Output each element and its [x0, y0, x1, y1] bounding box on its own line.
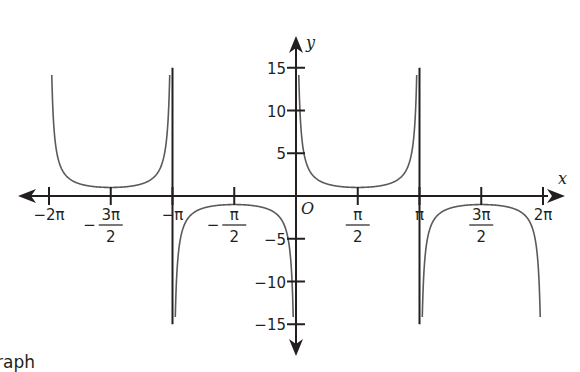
x-tick-numerator: π	[353, 206, 362, 224]
axes	[18, 36, 565, 356]
x-axis-label: x	[558, 169, 567, 188]
x-tick-numerator: π	[230, 206, 239, 224]
x-tick-label: −2π	[33, 206, 64, 224]
x-axis-right-arrow-icon	[547, 189, 565, 203]
y-tick-label: 5	[276, 145, 286, 163]
caption-fragment: raph	[0, 352, 35, 372]
curve-branch	[299, 75, 417, 188]
y-tick-label: −15	[254, 316, 286, 334]
y-tick-label: 10	[267, 103, 286, 121]
y-tick-label: −5	[264, 231, 286, 249]
origin-label: O	[301, 199, 314, 218]
curve-branch	[52, 75, 170, 188]
x-tick-label: π	[415, 206, 424, 224]
x-tick-denominator: 2	[353, 228, 363, 246]
x-tick-denominator: 2	[476, 228, 486, 246]
x-tick-label: 2π	[534, 206, 553, 224]
y-tick-label: 15	[267, 60, 286, 78]
x-tick-sign: −	[207, 216, 220, 234]
x-tick-numerator: 3π	[472, 206, 491, 224]
x-tick-numerator: 3π	[101, 206, 120, 224]
y-tick-label: −10	[254, 274, 286, 292]
x-tick-label: −π	[162, 206, 184, 224]
x-tick-denominator: 2	[106, 228, 116, 246]
x-tick-denominator: 2	[229, 228, 239, 246]
x-tick-sign: −	[83, 216, 96, 234]
y-axis-label: y	[305, 33, 316, 52]
